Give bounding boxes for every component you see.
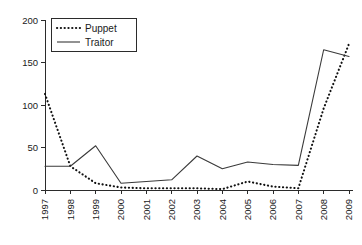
x-tick-label: 1997 (39, 199, 50, 220)
line-chart: 050100150200 199719981999200020012002200… (0, 0, 362, 245)
legend-label-puppet: Puppet (85, 23, 117, 34)
y-tick-label: 50 (27, 142, 38, 153)
x-tick-label: 2000 (115, 199, 126, 220)
x-tick-label: 2004 (217, 199, 228, 220)
y-tick-label: 0 (33, 185, 38, 196)
x-tick-label: 1999 (90, 199, 101, 220)
x-tick-label: 2005 (242, 199, 253, 220)
series-line-puppet (45, 44, 349, 189)
series-line-traitor (45, 50, 349, 183)
legend-label-traitor: Traitor (85, 37, 114, 48)
y-axis: 050100150200 (22, 15, 45, 196)
y-tick-label: 150 (22, 57, 38, 68)
series-lines (45, 44, 349, 189)
y-tick-label: 200 (22, 15, 38, 26)
x-tick-label: 2009 (343, 199, 354, 220)
x-tick-label: 2002 (166, 199, 177, 220)
x-tick-label: 2001 (141, 199, 152, 220)
x-tick-label: 2008 (318, 199, 329, 220)
x-tick-label: 1998 (65, 199, 76, 220)
y-tick-label: 100 (22, 100, 38, 111)
chart-canvas: 050100150200 199719981999200020012002200… (0, 0, 362, 245)
x-axis: 1997199819992000200120022003200420052006… (39, 190, 354, 220)
x-tick-label: 2007 (293, 199, 304, 220)
x-tick-label: 2006 (267, 199, 278, 220)
x-tick-label: 2003 (191, 199, 202, 220)
chart-legend: PuppetTraitor (51, 18, 136, 51)
